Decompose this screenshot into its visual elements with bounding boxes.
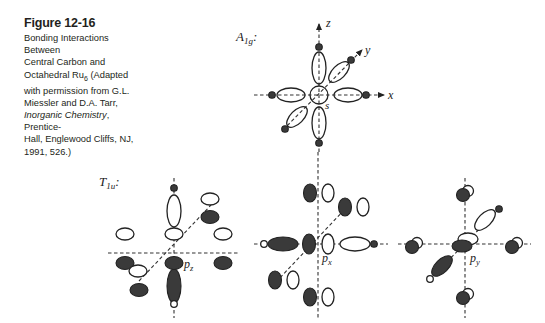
ruthenium-atom bbox=[427, 276, 434, 283]
ruthenium-atom bbox=[171, 301, 178, 308]
ligand-p-lobe bbox=[506, 241, 519, 254]
ligand-lobe-negative bbox=[167, 269, 181, 303]
ligand-p-lobe bbox=[304, 288, 317, 306]
z-axis-label: z bbox=[325, 16, 331, 30]
ruthenium-atom bbox=[496, 206, 503, 213]
pz-lobe-positive bbox=[165, 228, 183, 240]
t1u-pz-diagram: pz bbox=[108, 178, 240, 318]
pz-label: pz bbox=[183, 257, 194, 273]
py-label: py bbox=[469, 251, 480, 267]
pz-lobe-negative bbox=[165, 257, 183, 270]
ruthenium-atom bbox=[282, 126, 289, 133]
ruthenium-atom bbox=[371, 241, 378, 248]
ruthenium-atom bbox=[261, 241, 268, 248]
x-axis-label: x bbox=[387, 88, 394, 102]
ligand-p-lobe bbox=[457, 189, 470, 202]
ruthenium-atom bbox=[316, 44, 323, 51]
ligand-p-lobe bbox=[130, 284, 148, 297]
ligand-p-lobe bbox=[339, 198, 352, 216]
ruthenium-atom bbox=[348, 57, 355, 64]
ligand-lobe-positive bbox=[340, 237, 370, 251]
px-lobe-negative bbox=[303, 234, 316, 254]
a1g-diagram: A1g: z x y s bbox=[235, 16, 394, 152]
ligand-p-lobe bbox=[457, 292, 470, 305]
ruthenium-atom bbox=[363, 92, 370, 99]
ligand-p-lobe bbox=[287, 271, 299, 289]
ligand-p-lobe bbox=[304, 184, 317, 202]
ligand-p-lobe bbox=[201, 211, 219, 224]
ruthenium-atom bbox=[316, 140, 323, 147]
ligand-lobe bbox=[312, 107, 326, 139]
ligand-p-lobe bbox=[269, 271, 282, 289]
t1u-py-diagram: py bbox=[398, 178, 531, 318]
t1u-px-diagram: px bbox=[254, 152, 388, 318]
ligand-lobe-negative bbox=[268, 237, 298, 251]
ruthenium-atom bbox=[269, 92, 276, 99]
ruthenium-atom bbox=[171, 185, 178, 192]
s-orbital-label: s bbox=[325, 99, 329, 111]
ligand-lobe-positive bbox=[167, 195, 181, 227]
ligand-p-lobe bbox=[214, 257, 232, 270]
ligand-p-lobe bbox=[322, 184, 334, 202]
orbital-diagrams: A1g: z x y s T1u: bbox=[0, 0, 545, 323]
ligand-p-lobe bbox=[357, 198, 369, 216]
ligand-p-lobe bbox=[116, 228, 134, 240]
ligand-p-lobe bbox=[406, 241, 419, 254]
ligand-p-lobe bbox=[322, 288, 334, 306]
ligand-p-lobe bbox=[201, 193, 219, 205]
py-lobe-negative bbox=[452, 240, 472, 252]
t1u-label: T1u: bbox=[99, 174, 120, 191]
ligand-lobe-positive bbox=[471, 206, 499, 234]
a1g-label: A1g: bbox=[235, 29, 257, 46]
ligand-p-lobe bbox=[129, 265, 147, 277]
ligand-p-lobe bbox=[214, 228, 232, 240]
y-axis-label: y bbox=[364, 43, 371, 57]
